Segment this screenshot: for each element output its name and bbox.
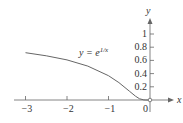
curve-e-1-over-x [26, 53, 151, 100]
x-tick-label: 0 [143, 103, 148, 114]
function-label: y = e1/x [78, 46, 109, 58]
y-tick-label: 1 [142, 28, 147, 39]
y-tick-label: 0.4 [135, 68, 148, 79]
open-endpoint [148, 98, 152, 102]
x-tick-label: −2 [63, 103, 74, 114]
y-axis-label: y [145, 5, 151, 16]
y-axis-arrow-icon [148, 18, 153, 24]
x-axis-label: x [176, 94, 182, 105]
y-tick-label: 0.2 [135, 81, 148, 92]
x-tick-label: −3 [22, 103, 33, 114]
x-tick-label: −1 [105, 103, 116, 114]
y-tick-label: 0.6 [135, 54, 148, 65]
chart: xy−3−2−100.20.40.60.81 y = e1/x [0, 0, 183, 123]
x-axis-arrow-icon [168, 98, 174, 103]
y-tick-label: 0.8 [135, 41, 148, 52]
